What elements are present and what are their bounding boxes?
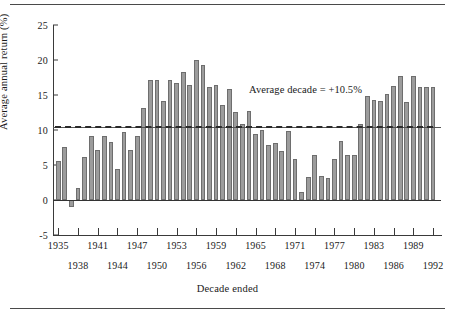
- bar: [404, 102, 409, 200]
- x-tick-label: 1977: [324, 240, 345, 251]
- bar: [115, 169, 120, 201]
- bar: [240, 124, 245, 200]
- plot-area: [53, 25, 441, 235]
- bar: [345, 155, 350, 200]
- x-tick-mark: [78, 228, 79, 235]
- bar: [220, 105, 225, 200]
- bar: [372, 100, 377, 200]
- bar: [161, 101, 166, 200]
- bar: [187, 85, 192, 201]
- bar: [319, 176, 324, 201]
- x-tick-label: 1947: [127, 240, 148, 251]
- bar: [181, 72, 186, 200]
- bar: [155, 80, 160, 200]
- x-tick-label: 1992: [423, 260, 444, 271]
- x-tick-label: 1965: [245, 240, 266, 251]
- y-tick-label: 0: [43, 195, 48, 206]
- x-tick-mark: [275, 228, 276, 235]
- bar: [174, 83, 179, 200]
- y-axis-title: Average annual return (%): [0, 14, 9, 130]
- x-axis-line: [53, 235, 442, 236]
- y-tick-label: 25: [38, 20, 48, 31]
- bar: [326, 178, 331, 200]
- bar: [352, 155, 357, 201]
- bar: [82, 157, 87, 200]
- bar: [102, 136, 107, 200]
- bar: [266, 145, 271, 200]
- bar: [312, 155, 317, 201]
- x-tick-label: 1953: [166, 240, 187, 251]
- x-tick-mark: [394, 228, 395, 235]
- x-tick-mark: [334, 228, 335, 235]
- bar: [253, 134, 258, 200]
- x-tick-label: 1956: [186, 260, 207, 271]
- y-tick-label: 15: [38, 90, 48, 101]
- x-tick-label: 1935: [48, 240, 69, 251]
- x-tick-mark: [177, 228, 178, 235]
- top-divider-rule: [10, 4, 445, 5]
- bar: [201, 65, 206, 200]
- x-tick-label: 1986: [383, 260, 404, 271]
- x-tick-mark: [315, 228, 316, 235]
- bar: [69, 200, 74, 207]
- bar: [56, 161, 61, 200]
- average-dashed-segment: [55, 126, 433, 128]
- bottom-divider-rule: [10, 308, 445, 309]
- y-tick-label: 10: [38, 125, 48, 136]
- bar: [89, 136, 94, 200]
- x-tick-mark: [256, 228, 257, 235]
- x-axis-title: Decade ended: [0, 283, 455, 294]
- x-tick-mark: [236, 228, 237, 235]
- bar: [431, 87, 436, 200]
- bar: [95, 150, 100, 200]
- x-tick-mark: [117, 228, 118, 235]
- bar: [141, 108, 146, 200]
- bar: [76, 188, 81, 200]
- bar: [398, 76, 403, 200]
- x-tick-mark: [295, 228, 296, 235]
- x-tick-mark: [354, 228, 355, 235]
- bar: [391, 86, 396, 200]
- x-tick-label: 1971: [285, 240, 306, 251]
- bar: [424, 87, 429, 200]
- bar: [293, 159, 298, 200]
- x-tick-label: 1983: [364, 240, 385, 251]
- bar: [227, 89, 232, 200]
- y-tick-label: 5: [43, 160, 48, 171]
- bar: [365, 96, 370, 200]
- x-tick-label: 1974: [304, 260, 325, 271]
- x-tick-mark: [98, 228, 99, 235]
- bar: [378, 101, 383, 200]
- bar: [194, 60, 199, 200]
- bar: [299, 192, 304, 200]
- bar: [306, 177, 311, 200]
- bar: [260, 130, 265, 200]
- x-tick-mark: [374, 228, 375, 235]
- x-tick-label: 1938: [68, 260, 89, 271]
- x-tick-mark: [433, 228, 434, 235]
- bar: [332, 159, 337, 200]
- bar: [135, 136, 140, 200]
- x-tick-mark: [137, 228, 138, 235]
- bar: [418, 87, 423, 200]
- x-tick-label: 1944: [107, 260, 128, 271]
- figure-container: Average annual return (%) -50510152025 A…: [0, 0, 455, 317]
- x-tick-label: 1980: [344, 260, 365, 271]
- zero-baseline: [53, 200, 441, 201]
- x-tick-label: 1950: [146, 260, 167, 271]
- x-tick-mark: [413, 228, 414, 235]
- bar: [214, 85, 219, 200]
- bar: [62, 147, 67, 200]
- bar: [168, 80, 173, 200]
- x-tick-label: 1989: [403, 240, 424, 251]
- bar: [247, 111, 252, 200]
- x-tick-label: 1941: [87, 240, 108, 251]
- bar: [358, 124, 363, 200]
- bar: [207, 87, 212, 200]
- bar: [286, 131, 291, 200]
- y-tick-label: 20: [38, 55, 48, 66]
- bar: [273, 143, 278, 200]
- y-tick-label: -5: [39, 230, 48, 241]
- bar: [279, 151, 284, 200]
- bar: [109, 142, 114, 200]
